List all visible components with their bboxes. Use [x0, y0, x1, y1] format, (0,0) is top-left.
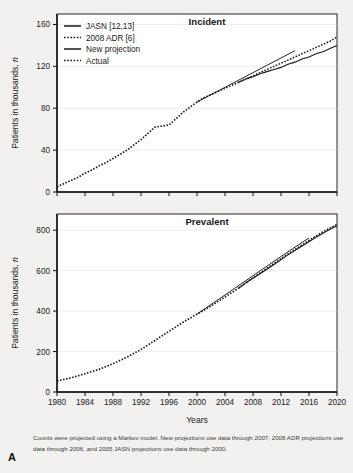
y-tick-label: 800 [36, 226, 50, 235]
x-tick-label: 2020 [328, 398, 347, 407]
legend-label: New projection [86, 45, 141, 54]
x-tick-label: 1984 [76, 398, 95, 407]
legend-label: 2008 ADR [6] [86, 34, 135, 43]
panel-letter: A [8, 451, 16, 463]
figure-caption: Counts were projected using a Markov mod… [33, 433, 345, 454]
x-tick-label: 1980 [48, 398, 67, 407]
y-tick-label: 600 [36, 267, 50, 276]
y-tick-label: 80 [41, 104, 51, 113]
plot-area [57, 214, 337, 392]
y-axis-title: Patients in thousands, n [10, 257, 20, 349]
y-tick-label: 160 [36, 20, 50, 29]
panel-title: Prevalent [185, 216, 229, 227]
y-tick-label: 0 [45, 188, 50, 197]
x-tick-label: 2004 [216, 398, 235, 407]
y-tick-label: 40 [41, 146, 51, 155]
chart-canvas: 04080120160IncidentPatients in thousands… [0, 0, 353, 430]
x-tick-label: 1988 [104, 398, 123, 407]
chart-panel-incident: 04080120160IncidentPatients in thousands… [10, 14, 337, 197]
legend-label: JASN [12,13] [86, 22, 134, 31]
y-tick-label: 0 [45, 388, 50, 397]
x-tick-label: 2012 [272, 398, 291, 407]
y-tick-label: 400 [36, 307, 50, 316]
y-tick-label: 200 [36, 348, 50, 357]
x-tick-label: 1996 [160, 398, 179, 407]
legend-label: Actual [86, 57, 109, 66]
y-axis-title: Patients in thousands, n [10, 57, 20, 149]
x-tick-label: 1992 [132, 398, 151, 407]
chart-panel-prevalent: 0200400600800198019841988199219962000200… [10, 214, 347, 407]
x-tick-label: 2000 [188, 398, 207, 407]
x-axis-title: Years [186, 415, 208, 425]
x-tick-label: 2008 [244, 398, 263, 407]
x-tick-label: 2016 [300, 398, 319, 407]
y-tick-label: 120 [36, 62, 50, 71]
panel-title: Incident [189, 16, 227, 27]
figure-panel-a: 04080120160IncidentPatients in thousands… [0, 0, 353, 473]
